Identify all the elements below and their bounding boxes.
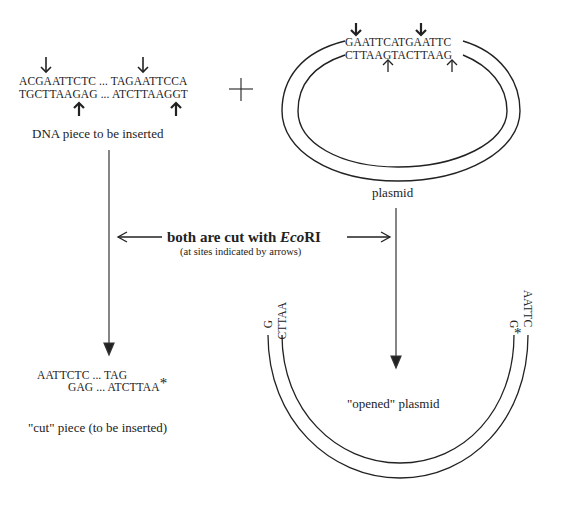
opened-plasmid-label: "opened" plasmid [347,396,440,412]
up-arrow-icon [171,103,181,116]
insert-label: DNA piece to be inserted [32,126,163,142]
insert-bottom-strand: TGCTTAAGAG ... ATCTTAAGGT [19,88,188,100]
cut-instruction: both are cut with EcoRI [167,228,321,246]
down-arrow-icon [416,23,426,35]
down-arrowhead-icon [104,343,114,355]
down-arrow-icon [138,57,148,72]
left-inner-end: CTTAA [276,302,288,339]
plus-icon [229,78,253,101]
left-outer-end: G [262,320,274,328]
asterisk-marker: * [160,375,168,391]
cut-piece-label: "cut" piece (to be inserted) [28,420,167,436]
up-arrow-icon [447,60,457,72]
cut-instruction-subtext: (at sites indicated by arrows) [180,246,301,257]
down-arrowhead-icon [391,356,401,368]
flow-arrows [104,150,401,368]
enzyme-name-roman: RI [304,229,321,245]
plasmid-ring [282,41,520,181]
asterisk-marker: * [514,325,522,342]
cut-piece-bottom-strand: GAG ... ATCTTAA* [68,380,167,393]
up-arrow-icon [74,103,84,116]
down-arrow-icon [41,57,51,72]
cut-instruction-main: both are cut with [167,229,280,245]
enzyme-name-italic: Eco [280,229,304,245]
down-arrow-icon [351,23,361,35]
cut-piece-bottom-seq: GAG ... ATCTTAA [68,381,160,393]
right-outer-end: AATTC [522,290,534,327]
plasmid-label: plasmid [372,185,413,201]
plasmid-bottom-strand: CTTAAGTACTTAAG [345,49,452,61]
insert-top-strand: ACGAATTCTC ... TAGAATTCCA [19,75,187,87]
up-arrow-icon [383,60,393,72]
plasmid-top-strand: GAATTCATGAATTC [345,36,451,48]
